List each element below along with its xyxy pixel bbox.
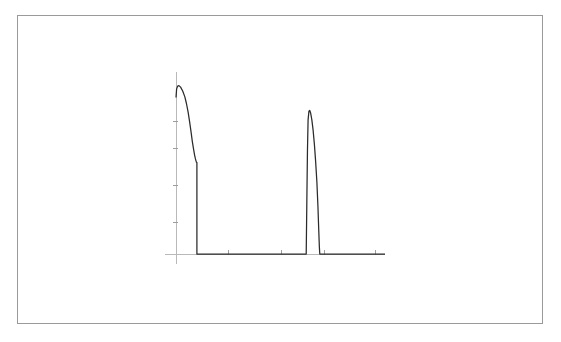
canvas-background	[0, 0, 561, 342]
plot-canvas	[0, 0, 561, 342]
figure-root	[0, 0, 561, 342]
